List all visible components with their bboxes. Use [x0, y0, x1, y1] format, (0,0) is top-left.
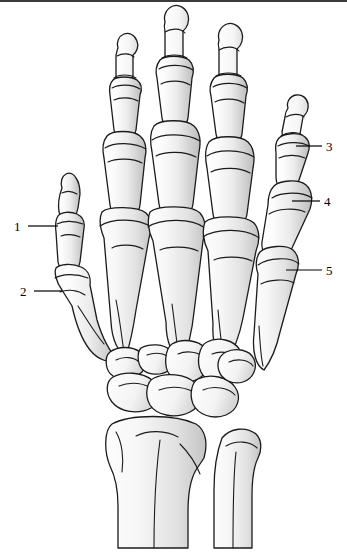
fifth-metacarpal	[253, 246, 298, 370]
index-proximal-phalanx	[103, 132, 146, 219]
hand-skeleton-illustration	[0, 0, 347, 560]
callout-label-5: 5	[326, 264, 333, 277]
little-finger-bone-group	[253, 95, 312, 370]
callout-label-2: 2	[20, 285, 27, 298]
forearm-bone-group	[106, 417, 261, 549]
carpal-bone-group	[106, 339, 255, 417]
callout-label-4: 4	[324, 195, 331, 208]
ulna	[214, 429, 261, 548]
ring-finger-bone-group	[203, 23, 259, 362]
index-finger-bone-group	[100, 33, 151, 356]
hand-skeleton-figure: 1 2 3 4 5	[0, 0, 347, 560]
callout-label-1: 1	[14, 220, 21, 233]
second-metacarpal	[100, 208, 151, 356]
pisiform	[218, 350, 255, 383]
callout-label-3: 3	[326, 140, 333, 153]
middle-finger-bone-group	[148, 5, 205, 360]
